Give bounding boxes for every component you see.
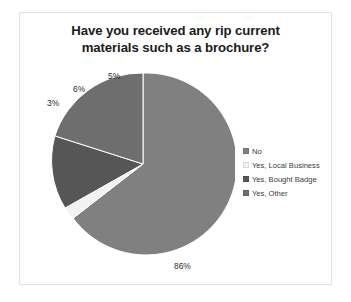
legend-swatch-icon-yes-other	[243, 190, 249, 196]
legend-swatch-icon-yes-bought-badge	[243, 176, 249, 182]
chart-title-line-1: Have you received any rip current	[20, 22, 331, 39]
chart-legend: No Yes, Local Business Yes, Bought Badge…	[243, 144, 331, 200]
legend-item-yes-bought-badge: Yes, Bought Badge	[243, 172, 331, 186]
chart-title: Have you received any rip current materi…	[20, 22, 331, 56]
pie-data-label-yes-local-business: 3%	[47, 98, 59, 108]
chart-title-line-2: materials such as a brochure?	[20, 39, 331, 56]
pie-data-label-no: 86%	[174, 261, 191, 271]
legend-label-yes-other: Yes, Other	[252, 189, 288, 198]
legend-label-yes-local-business: Yes, Local Business	[252, 161, 320, 170]
legend-item-yes-local-business: Yes, Local Business	[243, 158, 331, 172]
legend-item-no: No	[243, 144, 331, 158]
legend-label-no: No	[252, 147, 262, 156]
pie-plot-area	[51, 72, 235, 256]
pie-data-label-yes-bought-badge: 6%	[73, 84, 85, 94]
legend-label-yes-bought-badge: Yes, Bought Badge	[252, 175, 317, 184]
legend-swatch-icon-no	[243, 148, 249, 154]
pie-data-label-yes-other: 5%	[108, 71, 120, 81]
chart-frame: Have you received any rip current materi…	[19, 12, 332, 285]
legend-item-yes-other: Yes, Other	[243, 186, 331, 200]
pie-chart-svg	[51, 72, 235, 256]
legend-swatch-icon-yes-local-business	[243, 162, 249, 168]
